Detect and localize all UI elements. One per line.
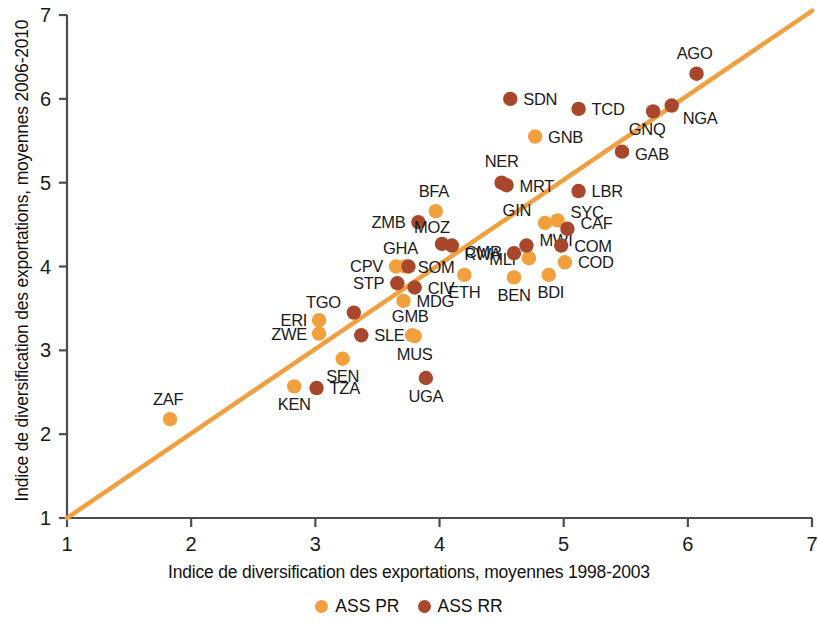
x-tick-label: 5 xyxy=(558,533,569,555)
data-point-label: TZA xyxy=(330,379,361,397)
data-point-label: COM xyxy=(574,237,612,255)
data-point-label: BFA xyxy=(419,182,450,200)
data-point[interactable] xyxy=(507,246,521,260)
data-point[interactable] xyxy=(312,313,326,327)
data-point-label: STP xyxy=(353,274,384,292)
plot-canvas: 12345671234567 ZAFKENERIZWESENCPVSOMMDGG… xyxy=(0,0,818,560)
scatter-plot: 12345671234567 ZAFKENERIZWESENCPVSOMMDGG… xyxy=(0,0,818,629)
data-point[interactable] xyxy=(558,255,572,269)
data-point[interactable] xyxy=(689,67,703,81)
data-point-label: GNQ xyxy=(629,120,666,138)
data-point[interactable] xyxy=(163,412,177,426)
data-point[interactable] xyxy=(507,270,521,284)
x-tick-label: 2 xyxy=(186,533,197,555)
data-point[interactable] xyxy=(445,238,459,252)
x-tick-label: 6 xyxy=(682,533,693,555)
data-point-label: SOM xyxy=(418,258,455,276)
data-point[interactable] xyxy=(419,371,433,385)
data-point[interactable] xyxy=(615,144,629,158)
legend-swatch-icon xyxy=(418,600,431,613)
data-point-label: ZWE xyxy=(271,325,307,343)
data-point-label: CIV xyxy=(428,279,455,297)
data-point-label: MRT xyxy=(520,177,555,195)
legend-item-ass-rr[interactable]: ASS RR xyxy=(418,596,503,617)
data-point-label: MUS xyxy=(397,345,433,363)
data-point[interactable] xyxy=(646,104,660,118)
y-tick-label: 4 xyxy=(40,256,51,278)
legend-swatch-icon xyxy=(315,600,328,613)
data-point[interactable] xyxy=(396,294,410,308)
data-point[interactable] xyxy=(335,352,349,366)
y-tick-label: 7 xyxy=(40,4,51,26)
data-point-label: BEN xyxy=(497,286,530,304)
data-point-label: MOZ xyxy=(414,218,450,236)
y-axis-title-wrap: Indice de diversification des exportatio… xyxy=(0,0,32,540)
y-tick-label: 2 xyxy=(40,423,51,445)
data-point[interactable] xyxy=(347,305,361,319)
data-point[interactable] xyxy=(554,238,568,252)
data-point-label: GMB xyxy=(392,307,429,325)
data-point-label: NER xyxy=(485,152,519,170)
data-point[interactable] xyxy=(312,326,326,340)
data-point[interactable] xyxy=(503,92,517,106)
data-point[interactable] xyxy=(401,259,415,273)
y-tick-label: 6 xyxy=(40,88,51,110)
data-point[interactable] xyxy=(538,216,552,230)
data-point[interactable] xyxy=(494,175,508,189)
data-point[interactable] xyxy=(354,328,368,342)
legend-label: ASS RR xyxy=(438,596,503,617)
legend-label: ASS PR xyxy=(335,596,399,617)
data-point[interactable] xyxy=(390,276,404,290)
y-tick-label: 3 xyxy=(40,339,51,361)
data-point-label: AGO xyxy=(677,44,713,62)
data-point-label: GNB xyxy=(548,128,583,146)
y-axis-title: Indice de diversification des exportatio… xyxy=(12,0,33,526)
data-point-label: GAB xyxy=(635,145,669,163)
x-tick-label: 4 xyxy=(434,533,445,555)
data-point-label: SDN xyxy=(523,90,557,108)
chart-container: 12345671234567 ZAFKENERIZWESENCPVSOMMDGG… xyxy=(0,0,818,629)
data-point-label: ZAF xyxy=(153,390,183,408)
y-tick-label: 1 xyxy=(40,507,51,529)
data-point[interactable] xyxy=(407,280,421,294)
data-point[interactable] xyxy=(560,222,574,236)
data-points-layer: ZAFKENERIZWESENCPVSOMMDGGMBBFAMUSETHBENM… xyxy=(153,44,718,427)
data-point[interactable] xyxy=(665,98,679,112)
x-tick-label: 3 xyxy=(310,533,321,555)
data-point-label: TCD xyxy=(592,100,625,118)
data-point[interactable] xyxy=(571,184,585,198)
data-point-label: TGO xyxy=(306,293,341,311)
data-point[interactable] xyxy=(528,129,542,143)
data-point-label: RWA xyxy=(464,245,501,263)
data-point[interactable] xyxy=(429,204,443,218)
data-point-label: BDI xyxy=(537,283,564,301)
data-point[interactable] xyxy=(571,102,585,116)
data-point[interactable] xyxy=(542,268,556,282)
data-point-label: SLE xyxy=(374,326,405,344)
data-point[interactable] xyxy=(519,238,533,252)
data-point-label: ZMB xyxy=(371,213,405,231)
x-axis-title: Indice de diversification des exportatio… xyxy=(0,562,818,583)
data-point-label: KEN xyxy=(278,395,311,413)
data-point-label: CPV xyxy=(350,257,383,275)
x-tick-label: 7 xyxy=(806,533,817,555)
data-point-label: CAF xyxy=(580,214,612,232)
data-point[interactable] xyxy=(309,381,323,395)
legend-item-ass-pr[interactable]: ASS PR xyxy=(315,596,399,617)
data-point[interactable] xyxy=(287,379,301,393)
data-point[interactable] xyxy=(457,268,471,282)
data-point-label: LBR xyxy=(592,182,624,200)
data-point[interactable] xyxy=(407,329,421,343)
data-point-label: COD xyxy=(578,253,614,271)
data-point[interactable] xyxy=(522,251,536,265)
data-point-label: NGA xyxy=(683,109,718,127)
y-tick-label: 5 xyxy=(40,172,51,194)
data-point-label: GIN xyxy=(503,201,531,219)
x-tick-label: 1 xyxy=(61,533,72,555)
chart-legend: ASS PRASS RR xyxy=(0,596,818,617)
data-point-label: GHA xyxy=(383,239,418,257)
data-point-label: UGA xyxy=(408,387,443,405)
